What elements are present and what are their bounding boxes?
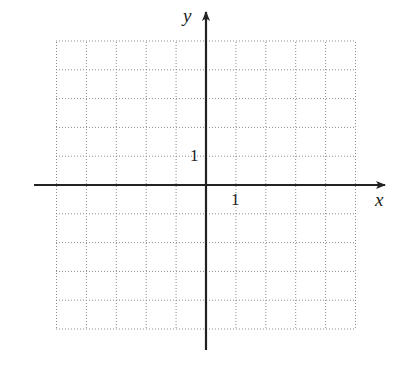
y-unit-tick-label: 1 xyxy=(190,147,199,164)
coordinate-plane xyxy=(0,0,411,370)
y-axis-label: y xyxy=(183,6,191,25)
x-axis-label: x xyxy=(375,190,383,209)
x-unit-tick-label: 1 xyxy=(231,191,240,208)
